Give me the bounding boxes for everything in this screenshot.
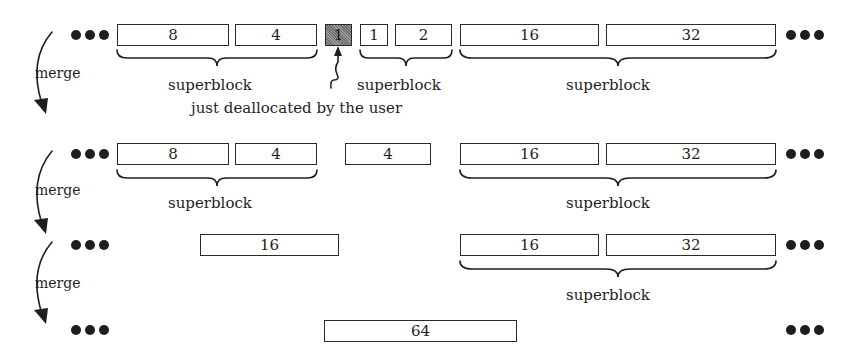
block-row1-2: 2: [395, 24, 452, 46]
block-row3-32: 32: [606, 234, 776, 256]
superblock-label-row3: superblock: [566, 288, 650, 303]
brace-row2-8-4: [117, 170, 317, 186]
block-row2-4-merged: 4: [345, 143, 431, 165]
ellipsis-icon: [786, 30, 824, 40]
ellipsis-icon: [71, 325, 109, 335]
block-row2-4: 4: [235, 143, 317, 165]
brace-row1-16-32: [460, 50, 776, 66]
merge-label-1: merge: [35, 66, 81, 80]
superblock-label-row2-b: superblock: [566, 196, 650, 211]
block-row2-8: 8: [117, 143, 229, 165]
merge-label-2: merge: [35, 183, 81, 197]
block-row4-64-merged: 64: [324, 320, 517, 342]
ellipsis-icon: [786, 240, 824, 250]
block-row1-1-freed: 1: [325, 24, 352, 46]
block-row2-16: 16: [460, 143, 599, 165]
block-row2-32: 32: [606, 143, 776, 165]
merge-arrowhead-2: [34, 218, 48, 234]
block-row1-16: 16: [460, 24, 599, 46]
brace-row2-16-32: [460, 170, 776, 186]
block-row1-1: 1: [360, 24, 388, 46]
merge-label-3: merge: [35, 276, 81, 290]
block-row3-16-merged: 16: [200, 234, 339, 256]
merge-arrowhead-3: [34, 308, 48, 324]
squiggle-arrowhead: [334, 46, 342, 56]
ellipsis-icon: [71, 149, 109, 159]
ellipsis-icon: [71, 240, 109, 250]
brace-row1-8-4: [117, 50, 317, 66]
brace-row3-16-32: [460, 261, 776, 277]
block-row3-16: 16: [460, 234, 599, 256]
block-row1-32: 32: [606, 24, 776, 46]
annotation-just-deallocated: just deallocated by the user: [191, 101, 402, 116]
diagram-graphics: [0, 0, 849, 357]
superblock-label-row1-b: superblock: [357, 78, 441, 93]
ellipsis-icon: [786, 325, 824, 335]
block-row1-4: 4: [235, 24, 317, 46]
ellipsis-icon: [786, 149, 824, 159]
ellipsis-icon: [71, 30, 109, 40]
superblock-label-row1-a: superblock: [168, 78, 252, 93]
buddy-merge-diagram: merge merge merge 8 4 1 1 2 16 32 superb…: [0, 0, 849, 357]
merge-arrowhead-1: [34, 98, 48, 114]
superblock-label-row2-a: superblock: [168, 196, 252, 211]
brace-row1-1-2: [360, 50, 452, 66]
block-row1-8: 8: [117, 24, 229, 46]
superblock-label-row1-c: superblock: [566, 78, 650, 93]
